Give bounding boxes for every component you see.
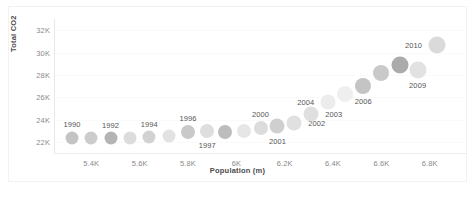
- data-point-bubble[interactable]: [218, 125, 232, 139]
- y-axis-tick-label: 32K: [36, 26, 50, 35]
- data-point-bubble[interactable]: [321, 95, 336, 110]
- gridline: [55, 53, 466, 54]
- data-point-bubble[interactable]: [85, 132, 98, 145]
- data-point-bubble[interactable]: [123, 132, 136, 145]
- data-point-bubble[interactable]: [254, 121, 268, 135]
- data-point-label: 1994: [141, 119, 158, 128]
- y-axis-title: Total CO2: [9, 15, 18, 52]
- data-point-label: 1996: [179, 114, 196, 123]
- data-point-bubble[interactable]: [373, 65, 389, 81]
- gridline: [55, 97, 466, 98]
- data-point-bubble[interactable]: [237, 124, 251, 138]
- gridline: [55, 142, 466, 143]
- y-axis-tick-label: 28K: [36, 70, 50, 79]
- data-point-label: 1990: [63, 120, 80, 129]
- chart-screenshot: 32K30K28K26K24K22K5.4K5.6K5.8K6K6.2K6.4K…: [0, 0, 475, 197]
- data-point-bubble[interactable]: [65, 131, 78, 144]
- y-axis-tick-label: 24K: [36, 115, 50, 124]
- data-point-label: 2003: [325, 109, 342, 118]
- data-point-label: 1992: [102, 120, 119, 129]
- data-point-label: 2006: [355, 97, 372, 106]
- x-axis-title: Population (m): [0, 166, 475, 175]
- data-point-label: 2000: [252, 109, 269, 118]
- data-point-bubble[interactable]: [143, 131, 156, 144]
- data-point-label: 1997: [199, 140, 216, 149]
- data-point-bubble[interactable]: [181, 125, 195, 139]
- chart-card: 32K30K28K26K24K22K5.4K5.6K5.8K6K6.2K6.4K…: [8, 6, 467, 182]
- data-point-label: 2004: [297, 98, 314, 107]
- data-point-bubble[interactable]: [428, 36, 445, 53]
- data-point-bubble[interactable]: [391, 56, 408, 73]
- data-point-label: 2009: [409, 81, 426, 90]
- data-point-bubble[interactable]: [355, 78, 371, 94]
- y-axis-tick-label: 26K: [36, 93, 50, 102]
- data-point-bubble[interactable]: [304, 106, 319, 121]
- y-axis-tick-label: 22K: [36, 137, 50, 146]
- gridline: [55, 75, 466, 76]
- data-point-bubble[interactable]: [287, 115, 302, 130]
- gridline: [55, 30, 466, 31]
- data-point-bubble[interactable]: [200, 124, 214, 138]
- data-point-label: 2001: [269, 136, 286, 145]
- data-point-bubble[interactable]: [337, 86, 353, 102]
- data-point-bubble[interactable]: [409, 61, 426, 78]
- data-point-bubble[interactable]: [104, 132, 117, 145]
- data-point-bubble[interactable]: [162, 130, 175, 143]
- y-axis-tick-label: 30K: [36, 48, 50, 57]
- data-point-bubble[interactable]: [270, 119, 285, 134]
- plot-area: 32K30K28K26K24K22K5.4K5.6K5.8K6K6.2K6.4K…: [54, 19, 466, 154]
- data-point-label: 2010: [405, 40, 422, 49]
